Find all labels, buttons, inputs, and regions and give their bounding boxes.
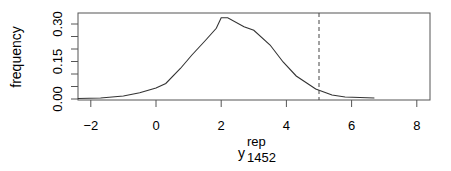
plot-box xyxy=(78,13,430,100)
x-tick-label: 4 xyxy=(283,118,290,133)
x-axis-title-sup: rep xyxy=(247,134,266,149)
y-tick-label: 0.30 xyxy=(50,11,65,36)
x-tick-label: 8 xyxy=(413,118,420,133)
y-tick-label: 0.00 xyxy=(50,86,65,111)
x-axis-title: y rep 1452 xyxy=(238,134,276,165)
x-tick-label: −2 xyxy=(83,118,98,133)
x-axis: −202468 xyxy=(83,100,420,133)
density-chart: 0.000.150.30 −202468 frequency y rep 145… xyxy=(0,0,451,171)
x-tick-label: 2 xyxy=(218,118,225,133)
y-axis: 0.000.150.30 xyxy=(50,11,78,111)
x-tick-label: 6 xyxy=(348,118,355,133)
density-curve xyxy=(78,18,375,99)
x-axis-title-sub: 1452 xyxy=(247,150,276,165)
x-axis-title-base: y xyxy=(238,145,245,161)
x-tick-label: 0 xyxy=(152,118,159,133)
y-tick-label: 0.15 xyxy=(50,49,65,74)
y-axis-title: frequency xyxy=(8,26,24,87)
